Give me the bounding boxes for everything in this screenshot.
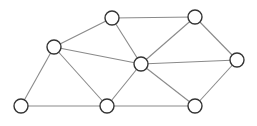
- node-E: [230, 53, 244, 67]
- node-G: [100, 99, 114, 113]
- node-F: [14, 99, 28, 113]
- diagram-background: [0, 0, 257, 126]
- node-A: [105, 11, 119, 25]
- node-C: [47, 40, 61, 54]
- graph-diagram: [0, 0, 257, 126]
- node-D: [134, 57, 148, 71]
- node-B: [188, 10, 202, 24]
- node-H: [188, 99, 202, 113]
